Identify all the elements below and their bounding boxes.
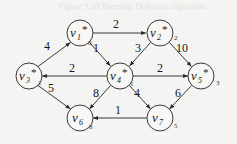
graph-diagram: Figure 9.20 Running Dijkstra's algorithm… [0, 0, 237, 144]
node-name: v [19, 68, 25, 83]
edge-weight: 3 [135, 41, 141, 55]
edge-weight: 2 [69, 61, 75, 75]
distance-label: 1 [38, 79, 42, 87]
known-star-icon: * [82, 23, 88, 35]
edge-v7-v6: 1 [93, 103, 147, 118]
node-name: v [152, 110, 158, 125]
known-star-icon: * [203, 66, 209, 78]
node-subscript: 3 [25, 76, 30, 85]
known-star-icon: * [122, 66, 128, 78]
distance-label: 0 [88, 39, 92, 47]
edge-weight: 1 [93, 41, 99, 55]
edge-weight: 4 [134, 86, 140, 100]
edge-weight: 10 [176, 41, 188, 55]
node-name: v [150, 25, 156, 40]
node-v6: v 6 8 [67, 105, 93, 131]
known-star-icon: * [162, 23, 168, 35]
edge-v1-v4: 1 [90, 41, 111, 66]
known-star-icon: * [31, 66, 37, 78]
node-name: v [72, 110, 78, 125]
edge-weight: 8 [93, 86, 99, 100]
node-subscript: 5 [198, 76, 202, 85]
edge-v4-v7: 4 [130, 86, 151, 110]
distance-label: 1 [130, 80, 134, 88]
edge-v4-v5: 2 [133, 61, 188, 76]
graph-svg: 4 2 1 3 10 2 2 [0, 0, 237, 144]
edge-v2-v5: 10 [170, 41, 192, 67]
edge-v5-v7: 6 [170, 86, 192, 110]
edge-weight: 2 [157, 61, 163, 75]
node-name: v [191, 68, 197, 83]
edge-v4-v3: 2 [42, 61, 107, 76]
node-v5: v 5 * 3 [188, 63, 220, 89]
edge-weight: 5 [48, 81, 54, 95]
distance-label: 2 [174, 34, 178, 42]
edge-v3-v1: 4 [38, 39, 71, 67]
node-name: v [110, 68, 116, 83]
distance-label: 5 [174, 122, 178, 130]
node-name: v [70, 25, 76, 40]
edge-v4-v6: 8 [90, 86, 111, 110]
distance-label: 3 [216, 79, 220, 87]
distance-label: 8 [89, 123, 93, 131]
node-subscript: 4 [117, 76, 121, 85]
node-subscript: 1 [77, 33, 81, 42]
node-subscript: 2 [157, 33, 161, 42]
edge-v4-v2: 3 [130, 41, 151, 66]
node-v1: v 1 * 0 [67, 20, 93, 47]
node-v7: v 7 5 [147, 105, 178, 131]
edge-weight: 4 [44, 39, 50, 53]
node-v2: v 2 * 2 [147, 20, 178, 46]
edge-v1-v2: 2 [93, 17, 146, 33]
node-v4: v 4 * 1 [107, 63, 134, 89]
edge-weight: 1 [115, 103, 121, 117]
edge-weight: 6 [175, 86, 181, 100]
node-subscript: 6 [79, 118, 83, 127]
edge-weight: 2 [113, 17, 119, 31]
node-v3: v 3 * 1 [16, 63, 42, 89]
edge-v3-v6: 5 [38, 81, 71, 109]
